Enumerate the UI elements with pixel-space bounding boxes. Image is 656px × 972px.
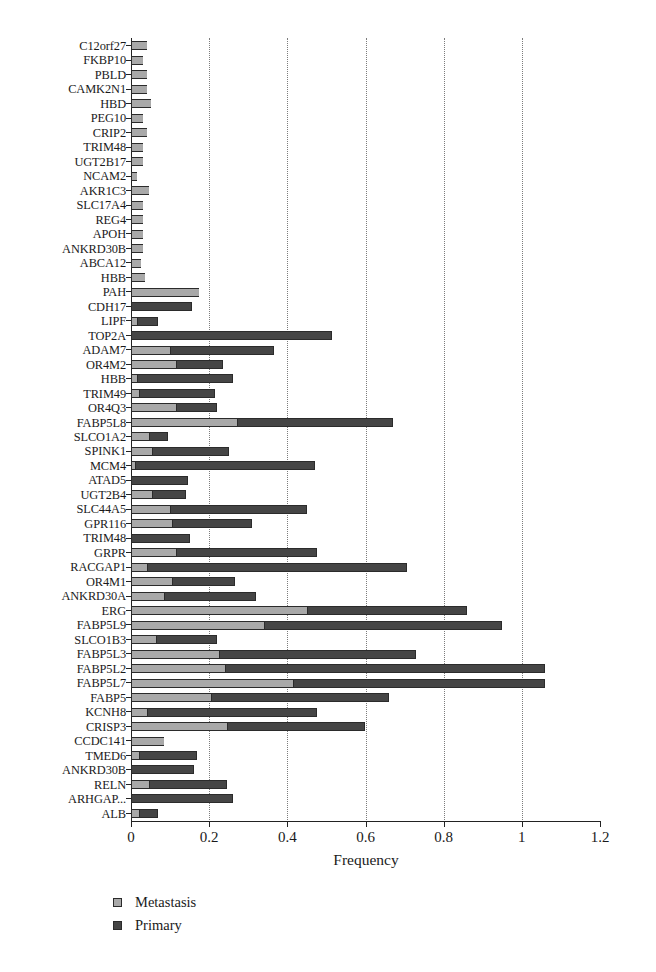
stacked-bar[interactable] bbox=[131, 230, 143, 239]
stacked-bar[interactable] bbox=[131, 809, 158, 818]
stacked-bar[interactable] bbox=[131, 679, 545, 688]
x-tick-label: 0 bbox=[127, 829, 135, 846]
stacked-bar[interactable] bbox=[131, 302, 192, 311]
stacked-bar[interactable] bbox=[131, 650, 416, 659]
stacked-bar[interactable] bbox=[131, 85, 147, 94]
bar-segment-primary bbox=[219, 650, 416, 659]
stacked-bar[interactable] bbox=[131, 418, 393, 427]
stacked-bar[interactable] bbox=[131, 722, 366, 731]
stacked-bar[interactable] bbox=[131, 403, 217, 412]
bar-segment-primary bbox=[139, 389, 215, 398]
bar-segment-primary bbox=[172, 519, 252, 528]
stacked-bar[interactable] bbox=[131, 432, 168, 441]
bar-segment-metastasis bbox=[131, 432, 149, 441]
stacked-bar[interactable] bbox=[131, 606, 467, 615]
stacked-bar[interactable] bbox=[131, 737, 164, 746]
stacked-bar[interactable] bbox=[131, 780, 227, 789]
plot-area bbox=[131, 38, 600, 820]
legend-item-primary[interactable]: Primary bbox=[113, 914, 196, 937]
stacked-bar[interactable] bbox=[131, 563, 407, 572]
bar-segment-primary bbox=[131, 794, 233, 803]
stacked-bar[interactable] bbox=[131, 592, 256, 601]
bar-segment-metastasis bbox=[131, 737, 164, 746]
stacked-bar[interactable] bbox=[131, 751, 197, 760]
bar-segment-metastasis bbox=[131, 664, 225, 673]
stacked-bar[interactable] bbox=[131, 346, 274, 355]
stacked-bar[interactable] bbox=[131, 664, 545, 673]
bar-segment-metastasis bbox=[131, 273, 145, 282]
bar-segment-primary bbox=[147, 563, 407, 572]
stacked-bar[interactable] bbox=[131, 331, 332, 340]
x-tick-mark bbox=[131, 821, 132, 827]
stacked-bar[interactable] bbox=[131, 693, 389, 702]
bar-row[interactable] bbox=[131, 806, 600, 823]
stacked-bar[interactable] bbox=[131, 259, 141, 268]
stacked-bar[interactable] bbox=[131, 186, 149, 195]
bar-segment-primary bbox=[172, 577, 235, 586]
bar-segment-primary bbox=[139, 751, 198, 760]
stacked-bar[interactable] bbox=[131, 244, 143, 253]
bar-segment-primary bbox=[139, 809, 159, 818]
bar-segment-primary bbox=[152, 447, 228, 456]
legend-item-metastasis[interactable]: Metastasis bbox=[113, 891, 196, 914]
bar-segment-primary bbox=[131, 331, 332, 340]
stacked-bar[interactable] bbox=[131, 548, 317, 557]
stacked-bar[interactable] bbox=[131, 288, 199, 297]
bar-segment-metastasis bbox=[131, 114, 143, 123]
stacked-bar[interactable] bbox=[131, 215, 143, 224]
stacked-bar[interactable] bbox=[131, 577, 235, 586]
stacked-bar[interactable] bbox=[131, 635, 217, 644]
bar-segment-metastasis bbox=[131, 780, 149, 789]
bar-segment-primary bbox=[135, 461, 315, 470]
bar-segment-metastasis bbox=[131, 230, 143, 239]
stacked-bar[interactable] bbox=[131, 794, 233, 803]
x-tick-label: 0.2 bbox=[200, 829, 219, 846]
bar-segment-metastasis bbox=[131, 70, 147, 79]
bar-segment-primary bbox=[211, 693, 389, 702]
stacked-bar[interactable] bbox=[131, 389, 215, 398]
stacked-bar[interactable] bbox=[131, 505, 307, 514]
stacked-bar[interactable] bbox=[131, 114, 143, 123]
stacked-bar[interactable] bbox=[131, 621, 502, 630]
stacked-bar[interactable] bbox=[131, 461, 315, 470]
stacked-bar[interactable] bbox=[131, 447, 229, 456]
bar-segment-primary bbox=[307, 606, 467, 615]
bar-segment-primary bbox=[176, 403, 217, 412]
bar-segment-primary bbox=[149, 780, 227, 789]
stacked-bar[interactable] bbox=[131, 157, 143, 166]
stacked-bar[interactable] bbox=[131, 128, 147, 137]
legend-label-metastasis: Metastasis bbox=[135, 894, 196, 911]
stacked-bar[interactable] bbox=[131, 99, 151, 108]
stacked-bar[interactable] bbox=[131, 360, 223, 369]
stacked-bar[interactable] bbox=[131, 70, 147, 79]
stacked-bar[interactable] bbox=[131, 765, 194, 774]
bar-segment-metastasis bbox=[131, 519, 172, 528]
bar-segment-metastasis bbox=[131, 447, 152, 456]
bar-segment-metastasis bbox=[131, 708, 147, 717]
x-tick-mark bbox=[444, 821, 445, 827]
bar-segment-primary bbox=[293, 679, 545, 688]
bar-segment-metastasis bbox=[131, 693, 211, 702]
stacked-bar[interactable] bbox=[131, 519, 252, 528]
stacked-bar[interactable] bbox=[131, 490, 186, 499]
stacked-bar[interactable] bbox=[131, 41, 147, 50]
stacked-bar[interactable] bbox=[131, 56, 143, 65]
stacked-bar[interactable] bbox=[131, 317, 158, 326]
bar-segment-primary bbox=[176, 360, 223, 369]
bar-segment-metastasis bbox=[131, 389, 139, 398]
y-axis-labels: C12orf27FKBP10PBLDCAMK2N1HBDPEG10CRIP2TR… bbox=[0, 38, 126, 820]
bar-segment-metastasis bbox=[131, 346, 170, 355]
stacked-bar[interactable] bbox=[131, 708, 317, 717]
bar-segment-primary bbox=[131, 534, 190, 543]
stacked-bar[interactable] bbox=[131, 534, 190, 543]
stacked-bar[interactable] bbox=[131, 273, 145, 282]
stacked-bar[interactable] bbox=[131, 374, 233, 383]
bar-segment-primary bbox=[176, 548, 317, 557]
stacked-bar[interactable] bbox=[131, 201, 143, 210]
stacked-bar[interactable] bbox=[131, 476, 188, 485]
x-tick-mark bbox=[287, 821, 288, 827]
stacked-bar[interactable] bbox=[131, 143, 143, 152]
bar-segment-metastasis bbox=[131, 157, 143, 166]
bar-segment-primary bbox=[149, 432, 169, 441]
stacked-bar[interactable] bbox=[131, 172, 137, 181]
